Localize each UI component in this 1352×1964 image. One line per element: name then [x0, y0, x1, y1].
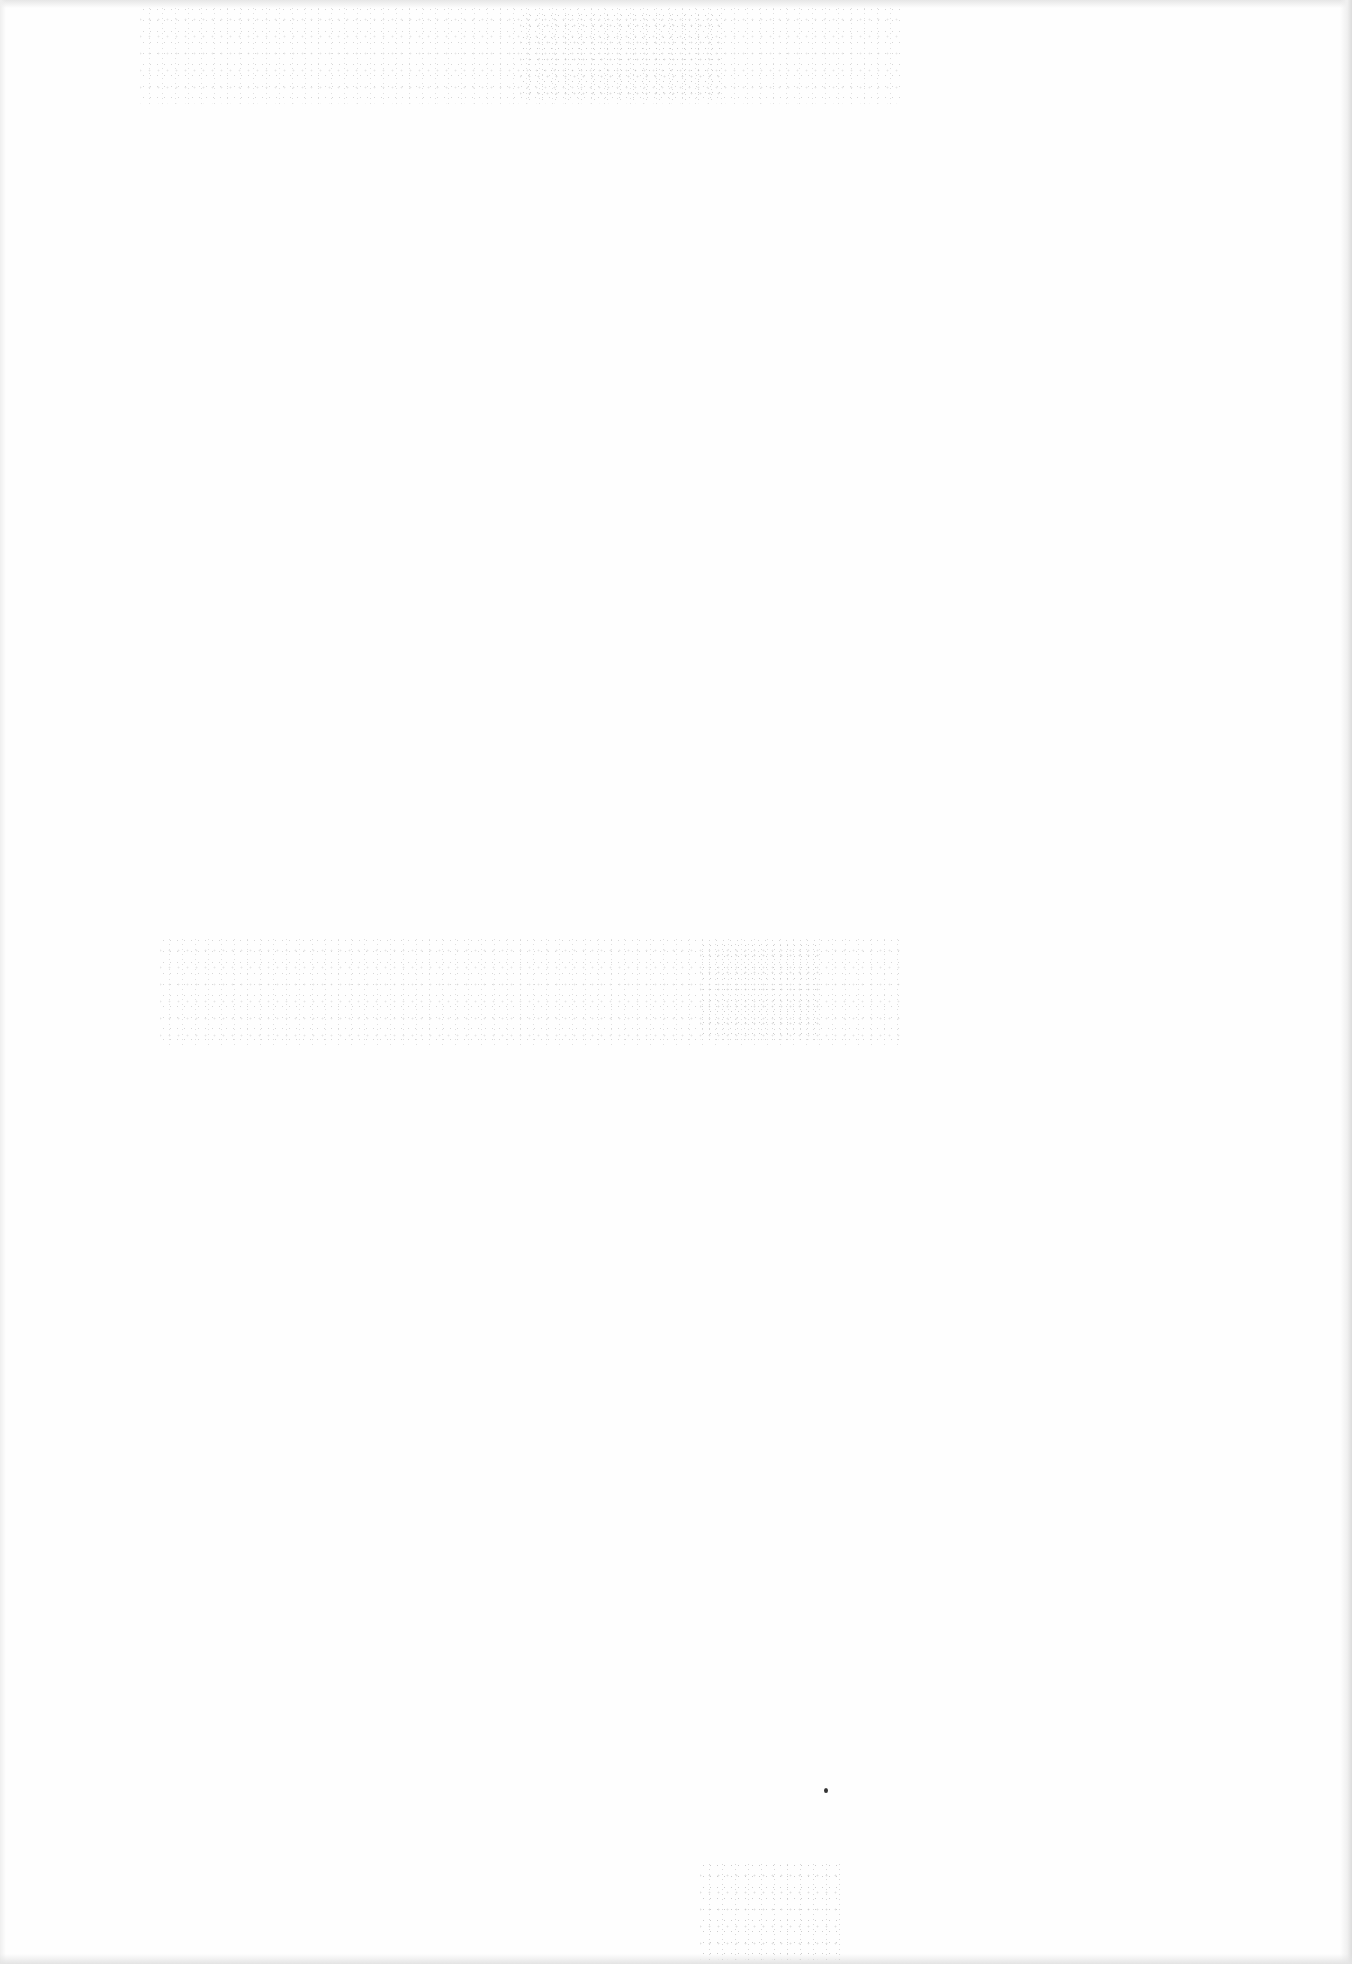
- scan-left-edge-shadow: [0, 0, 6, 1964]
- dust-speck: [824, 1788, 828, 1793]
- scan-noise-top-dense: [520, 10, 720, 100]
- scan-right-edge-shadow: [1340, 0, 1352, 1964]
- scan-noise-middle-dense: [700, 940, 820, 1040]
- blank-scanned-page: [0, 0, 1352, 1964]
- scan-bottom-edge-shadow: [0, 1954, 1352, 1964]
- scan-noise-bottom: [700, 1860, 840, 1960]
